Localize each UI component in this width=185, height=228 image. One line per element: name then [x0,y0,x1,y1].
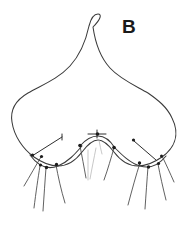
dot-leader-left-origin [31,153,34,156]
figure-drawing [0,0,185,228]
dot-left-socket-3 [45,166,48,169]
seta-left-3 [43,168,46,211]
dot-median-socket-left [78,144,82,148]
dot-median-socket-right [112,146,116,150]
leader-lines-group [32,130,156,160]
dot-left-socket-2 [39,163,42,166]
faint-lines-group [88,140,102,180]
faint-median-v-right-line [90,148,96,179]
body-outline-group [12,14,176,166]
dot-right-socket-4 [160,155,163,158]
dot-median-socket-apex [96,132,100,136]
ventral-margin-group [30,136,166,168]
dot-left-socket-1 [40,155,43,158]
seta-left-2 [34,166,40,208]
faint-median-stub-line [99,140,102,154]
seta-left-1 [24,157,41,186]
seta-right-3 [158,164,166,200]
leader-line-right [134,141,156,160]
dot-right-socket-1 [138,161,141,164]
seta-left-4 [56,165,65,203]
seta-median-right [104,148,114,180]
seta-right-2 [145,167,148,209]
dot-right-socket-2 [147,165,150,168]
leader-line-left [32,137,62,156]
dot-left-socket-4 [55,163,58,166]
dot-leader-right-origin [132,138,135,141]
figure-panel: B [0,0,185,228]
dot-right-socket-3 [157,162,160,165]
seta-right-1 [128,163,140,205]
panel-label-b: B [122,17,136,36]
body-outline-path [12,14,176,166]
seta-right-4 [162,156,174,182]
